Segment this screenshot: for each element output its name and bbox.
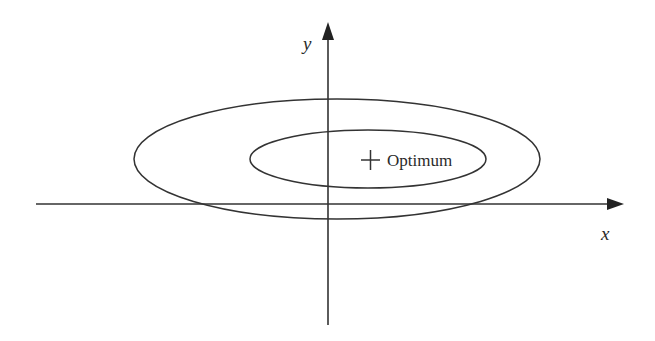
x-axis-arrow-icon xyxy=(607,198,624,210)
contour-diagram: Optimum y x xyxy=(0,0,655,341)
y-axis-label: y xyxy=(301,33,312,54)
x-axis-label: x xyxy=(600,223,610,244)
y-axis-arrow-icon xyxy=(322,22,334,40)
optimum-marker-icon xyxy=(361,150,380,170)
outer-contour xyxy=(134,99,540,219)
optimum-label: Optimum xyxy=(387,151,452,170)
